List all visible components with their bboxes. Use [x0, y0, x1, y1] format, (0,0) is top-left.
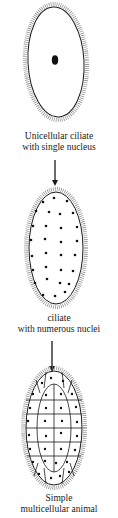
- diagram: Unicellular ciliate with single nucleus …: [0, 0, 118, 518]
- diagram-graphics: [0, 0, 118, 518]
- caption-unicellular: Unicellular ciliate with single nucleus: [0, 131, 118, 153]
- multicellular-animal: [23, 368, 85, 488]
- caption-unicellular-line2: with single nucleus: [0, 142, 118, 153]
- caption-multicellular-line1: Simple: [0, 493, 118, 504]
- caption-multicellular-line2: multicellular animal: [0, 504, 118, 515]
- caption-multinucleate: ciliate with numerous nuclei: [0, 313, 118, 335]
- arrow-down-2: [49, 341, 55, 372]
- caption-unicellular-line1: Unicellular ciliate: [0, 131, 118, 142]
- caption-multinucleate-line2: with numerous nuclei: [0, 324, 118, 335]
- multinucleate-ciliate-cell: [26, 189, 86, 307]
- arrow-down-1: [52, 160, 58, 186]
- single-nucleus: [52, 55, 58, 65]
- caption-multicellular: Simple multicellular animal: [0, 493, 118, 515]
- caption-multinucleate-line1: ciliate: [0, 313, 118, 324]
- unicellular-ciliate-cell: [22, 2, 90, 121]
